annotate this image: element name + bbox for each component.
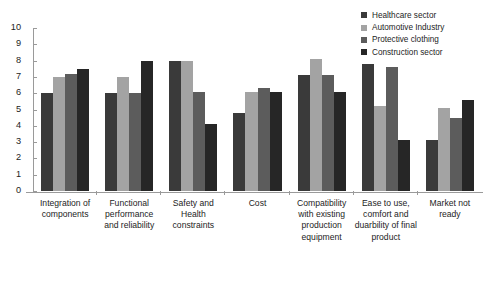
legend-item-label: Healthcare sector: [372, 11, 436, 20]
bar[interactable]: [438, 108, 450, 191]
y-axis-tick-mark: [33, 158, 37, 159]
bar[interactable]: [117, 77, 129, 191]
bar-group-bars: [105, 28, 153, 191]
bar[interactable]: [270, 92, 282, 191]
y-axis-tick-label: 3: [0, 137, 27, 146]
bar[interactable]: [65, 74, 77, 191]
bar[interactable]: [362, 64, 374, 191]
y-axis-tick-mark: [33, 61, 37, 62]
y-axis-tick-mark: [33, 191, 37, 192]
y-axis-tick-label: 9: [0, 39, 27, 48]
y-axis-tick-label: 10: [0, 23, 27, 32]
x-axis-category-label: Market not ready: [418, 198, 482, 220]
bar[interactable]: [298, 75, 310, 191]
x-axis-tick-mark: [224, 191, 225, 195]
bar-group: [418, 28, 482, 191]
x-axis-category-label: Integration of components: [33, 198, 97, 220]
bar-group-bars: [362, 28, 410, 191]
y-axis-tick-mark: [33, 175, 37, 176]
y-axis-tick-mark: [33, 142, 37, 143]
bar-group-bars: [41, 28, 89, 191]
legend-swatch-icon: [361, 12, 367, 18]
bar[interactable]: [322, 75, 334, 191]
bar[interactable]: [53, 77, 65, 191]
bar[interactable]: [169, 61, 181, 191]
bar[interactable]: [193, 92, 205, 191]
bar-group-bars: [233, 28, 281, 191]
bar-group-bars: [298, 28, 346, 191]
x-axis-category-label: Safety and Health constraints: [161, 198, 225, 232]
bar[interactable]: [386, 67, 398, 191]
bar[interactable]: [233, 113, 245, 191]
bar[interactable]: [462, 100, 474, 191]
y-axis-tick-label: 7: [0, 72, 27, 81]
y-axis-labels: 109876543210: [0, 0, 27, 281]
bar[interactable]: [129, 93, 141, 191]
bar-group-bars: [169, 28, 217, 191]
y-axis-tick-label: 0: [0, 186, 27, 195]
y-axis-tick-mark: [33, 44, 37, 45]
x-axis-line: [26, 192, 483, 193]
x-axis-tick-mark: [160, 191, 161, 195]
bar[interactable]: [398, 140, 410, 191]
bar-groups: [33, 28, 482, 191]
x-axis-category-label: Compatibility with existing production e…: [290, 198, 354, 243]
y-axis-tick-label: 6: [0, 88, 27, 97]
y-axis-tick-label: 2: [0, 153, 27, 162]
bar-group: [161, 28, 225, 191]
bar-group: [97, 28, 161, 191]
bar[interactable]: [141, 61, 153, 191]
x-axis-category-label: Cost: [225, 198, 289, 209]
x-axis-category-label: Functional performance and reliability: [97, 198, 161, 232]
bar-group: [225, 28, 289, 191]
y-axis-tick-mark: [33, 110, 37, 111]
bar[interactable]: [105, 93, 117, 191]
bar[interactable]: [258, 88, 270, 191]
bar-group-bars: [426, 28, 474, 191]
bar[interactable]: [450, 118, 462, 191]
legend-item[interactable]: Healthcare sector: [361, 9, 487, 21]
x-axis-tick-mark: [289, 191, 290, 195]
bar-group: [33, 28, 97, 191]
y-axis-tick-mark: [33, 126, 37, 127]
bar[interactable]: [41, 93, 53, 191]
y-axis-tick-mark: [33, 28, 37, 29]
bar-chart: Healthcare sectorAutomotive IndustryProt…: [0, 0, 489, 281]
bar[interactable]: [426, 140, 438, 191]
bar[interactable]: [205, 124, 217, 191]
x-axis-tick-mark: [417, 191, 418, 195]
bar[interactable]: [374, 106, 386, 191]
bar[interactable]: [310, 59, 322, 191]
bar[interactable]: [181, 61, 193, 191]
y-axis-tick-mark: [33, 77, 37, 78]
y-axis-tick-label: 4: [0, 121, 27, 130]
x-axis-tick-mark: [353, 191, 354, 195]
y-axis-tick-label: 1: [0, 170, 27, 179]
bar[interactable]: [77, 69, 89, 191]
y-axis-tick-label: 5: [0, 105, 27, 114]
bar-group: [354, 28, 418, 191]
x-axis-tick-mark: [96, 191, 97, 195]
y-axis-tick-label: 8: [0, 56, 27, 65]
y-axis-tick-mark: [33, 93, 37, 94]
x-axis-category-label: Ease to use, comfort and duarbility of f…: [354, 198, 418, 243]
bar[interactable]: [245, 92, 257, 191]
bar[interactable]: [334, 92, 346, 191]
bar-group: [290, 28, 354, 191]
x-axis-category-labels: Integration of componentsFunctional perf…: [33, 198, 482, 243]
